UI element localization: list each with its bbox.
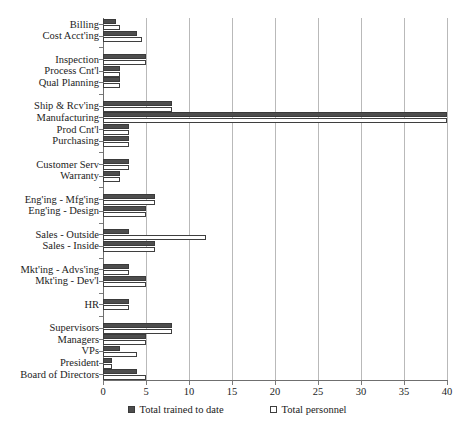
x-tick-label: 40	[442, 386, 453, 398]
x-tick	[361, 381, 362, 385]
chart-legend: Total trained to dateTotal personnel	[0, 404, 474, 415]
category-tick	[99, 47, 103, 48]
category-label: Eng'ing - Design	[3, 205, 99, 217]
bar-trained	[103, 276, 146, 281]
bar-trained	[103, 159, 129, 164]
x-axis: 0510152025303540	[103, 381, 448, 401]
gridline-40	[447, 18, 448, 380]
x-tick	[189, 381, 190, 385]
bar-trained	[103, 136, 129, 141]
empty-square-icon	[270, 406, 277, 413]
bar-trained	[103, 19, 116, 24]
x-tick-label: 20	[270, 386, 281, 398]
category-label: Prod Cnt'l	[3, 124, 99, 136]
category-label: Sales - Outside	[3, 229, 99, 241]
category-label: Cost Acct'ing	[3, 30, 99, 42]
legend-item: Total trained to date	[128, 404, 224, 415]
x-tick	[447, 381, 448, 385]
category-tick	[99, 258, 103, 259]
category-label: Inspection	[3, 54, 99, 66]
category-label: President	[3, 357, 99, 369]
bar-trained	[103, 101, 172, 106]
category-label: Supervisors	[3, 322, 99, 334]
category-label: Warranty	[3, 170, 99, 182]
bar-trained	[103, 66, 120, 71]
category-label: Manufacturing	[3, 112, 99, 124]
category-tick	[99, 223, 103, 224]
category-tick	[99, 94, 103, 95]
x-tick	[275, 381, 276, 385]
bar-trained	[103, 323, 172, 328]
x-tick-label: 15	[227, 386, 238, 398]
legend-label: Total personnel	[282, 404, 347, 415]
bar-trained	[103, 358, 112, 363]
x-tick-label: 35	[399, 386, 410, 398]
category-tick	[99, 187, 103, 188]
x-tick-label: 0	[100, 386, 105, 398]
x-tick	[404, 381, 405, 385]
category-tick	[99, 152, 103, 153]
x-tick	[318, 381, 319, 385]
category-label: Qual Planning	[3, 77, 99, 89]
x-tick-label: 30	[356, 386, 367, 398]
bar-trained	[103, 194, 155, 199]
category-label: Eng'ing - Mfg'ing	[3, 194, 99, 206]
legend-label: Total trained to date	[140, 404, 224, 415]
category-label: Mkt'ing - Dev'l	[3, 275, 99, 287]
bar-trained	[103, 334, 146, 339]
legend-item: Total personnel	[270, 404, 347, 415]
category-label: Billing	[3, 19, 99, 31]
category-tick	[99, 316, 103, 317]
bar-trained	[103, 112, 447, 117]
category-label: Sales - Inside	[3, 240, 99, 252]
category-label: Purchasing	[3, 135, 99, 147]
plot-area	[103, 18, 447, 380]
x-tick	[103, 381, 104, 385]
bar-trained	[103, 124, 129, 129]
x-tick-label: 5	[143, 386, 148, 398]
bar-trained	[103, 77, 120, 82]
category-label: Customer Serv	[3, 159, 99, 171]
bar-trained	[103, 229, 129, 234]
bar-trained	[103, 241, 155, 246]
category-label: HR	[3, 299, 99, 311]
bar-trained	[103, 171, 120, 176]
bar-trained	[103, 31, 137, 36]
bar-trained	[103, 369, 137, 374]
category-label: Managers	[3, 334, 99, 346]
category-label: VPs	[3, 345, 99, 357]
x-tick	[146, 381, 147, 385]
category-label: Process Cnt'l	[3, 65, 99, 77]
category-label: Board of Directors	[3, 369, 99, 381]
category-label: Mkt'ing - Advs'ing	[3, 264, 99, 276]
bar-trained	[103, 264, 129, 269]
bar-trained	[103, 346, 120, 351]
category-axis-labels: BillingCost Acct'ingInspectionProcess Cn…	[0, 18, 99, 380]
category-label: Ship & Rcv'ing	[3, 100, 99, 112]
bar-trained	[103, 54, 146, 59]
x-tick	[232, 381, 233, 385]
category-tick	[99, 293, 103, 294]
bar-chart: BillingCost Acct'ingInspectionProcess Cn…	[0, 0, 474, 439]
x-tick-label: 25	[313, 386, 324, 398]
filled-square-icon	[128, 406, 135, 413]
x-tick-label: 10	[184, 386, 195, 398]
bar-trained	[103, 206, 146, 211]
bar-trained	[103, 299, 129, 304]
